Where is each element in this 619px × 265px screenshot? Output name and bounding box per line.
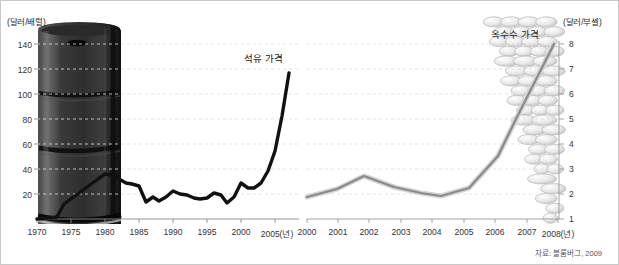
oil-ytick-140: 140 bbox=[5, 40, 32, 50]
oil-ytick-100: 100 bbox=[5, 90, 32, 100]
corn-y-axis-unit-label: (달러/부셸) bbox=[563, 15, 602, 27]
oil-price-chart: (달러/배럴) 140 120 100 80 60 40 20 1970 197… bbox=[1, 1, 306, 265]
oil-ytick-80: 80 bbox=[5, 115, 32, 125]
corn-xtick-2006: 2006 bbox=[477, 227, 513, 237]
oil-ytick-120: 120 bbox=[5, 65, 32, 75]
corn-xtick-2008: 2008(년) bbox=[534, 227, 582, 239]
corn-ytick-1: 1 bbox=[569, 214, 574, 224]
corn-ytick-5: 5 bbox=[569, 114, 574, 124]
source-note: 자료: 블룸버그, 2009 bbox=[535, 247, 602, 258]
oil-xtick-1970: 1970 bbox=[19, 227, 55, 237]
corn-xtick-2004: 2004 bbox=[414, 227, 450, 237]
corn-ytick-7: 7 bbox=[569, 64, 574, 74]
corn-ytick-6: 6 bbox=[569, 89, 574, 99]
oil-barrel-icon bbox=[38, 22, 121, 231]
corn-ytick-8: 8 bbox=[569, 39, 574, 49]
corn-ytick-3: 3 bbox=[569, 164, 574, 174]
oil-chart-svg bbox=[1, 1, 306, 265]
corn-price-chart: (달러/부셸) 8 7 6 5 4 3 2 1 2000 2001 2002 2… bbox=[301, 1, 619, 265]
oil-xtick-1985: 1985 bbox=[121, 227, 157, 237]
oil-xtick-1995: 1995 bbox=[189, 227, 225, 237]
oil-xtick-1980: 1980 bbox=[87, 227, 123, 237]
oil-price-series-label: 석유 가격 bbox=[244, 51, 283, 65]
corn-price-series-label: 옥수수 가격 bbox=[491, 27, 539, 41]
oil-ytick-20: 20 bbox=[5, 190, 32, 200]
oil-xtick-1990: 1990 bbox=[155, 227, 191, 237]
oil-ytick-40: 40 bbox=[5, 165, 32, 175]
corn-ytick-2: 2 bbox=[569, 189, 574, 199]
corn-x-axis bbox=[307, 219, 559, 223]
oil-ytick-60: 60 bbox=[5, 140, 32, 150]
oil-y-axis-unit-label: (달러/배럴) bbox=[7, 15, 46, 27]
oil-xtick-1975: 1975 bbox=[53, 227, 89, 237]
corn-xtick-2002: 2002 bbox=[351, 227, 387, 237]
figure-container: (달러/배럴) 140 120 100 80 60 40 20 1970 197… bbox=[0, 0, 619, 265]
corn-ytick-4: 4 bbox=[569, 139, 574, 149]
